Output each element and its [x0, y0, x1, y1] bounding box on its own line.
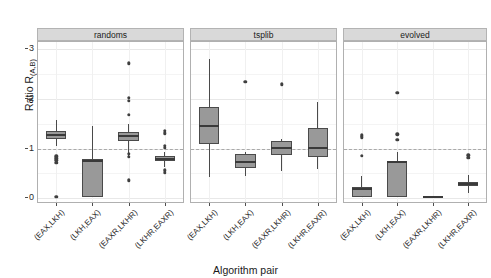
- outlier-point: [163, 131, 166, 134]
- facet-strip-label: tsplib: [190, 28, 337, 41]
- boxplot-group[interactable]: [38, 42, 183, 202]
- x-axis-tick-mark: [397, 203, 398, 206]
- facet-panel-evolved: evolved: [343, 28, 487, 203]
- median-line: [308, 147, 328, 149]
- x-axis-tick-mark: [245, 203, 246, 206]
- median-line: [155, 158, 175, 160]
- x-axis-tick-mark: [209, 203, 210, 206]
- facet-strip-label: evolved: [343, 28, 487, 41]
- x-axis-tick-mark: [56, 203, 57, 206]
- x-axis-tick-mark: [318, 203, 319, 206]
- facet-strip-label: randoms: [37, 28, 184, 41]
- x-axis-tick-mark: [433, 203, 434, 206]
- x-axis-tick-mark: [165, 203, 166, 206]
- x-axis-tick-mark: [362, 203, 363, 206]
- box-iqr: [308, 128, 328, 158]
- plot-area: [37, 41, 184, 203]
- y-axis-tick-mark: [25, 48, 28, 49]
- y-axis-tick-mark: [25, 148, 28, 149]
- boxplot-group[interactable]: [191, 42, 336, 202]
- x-axis-tick-mark: [282, 203, 283, 206]
- facet-panel-tsplib: tsplib: [190, 28, 337, 203]
- outlier-point: [467, 156, 470, 159]
- facet-panel-randoms: randoms: [37, 28, 184, 203]
- boxplot-group[interactable]: [344, 42, 486, 202]
- x-axis-tick-mark: [92, 203, 93, 206]
- x-axis-tick-mark: [468, 203, 469, 206]
- x-axis-tick-mark: [129, 203, 130, 206]
- y-axis-tick-label: 0: [12, 192, 34, 202]
- y-axis: 0123: [0, 0, 34, 278]
- y-axis-tick-label: 1: [12, 143, 34, 153]
- y-axis-tick-label: 2: [12, 93, 34, 103]
- outlier-point: [163, 146, 166, 149]
- y-axis-tick-mark: [25, 98, 28, 99]
- plot-area: [190, 41, 337, 203]
- boxplot-figure: Ratio R(A,B) 0123 Algorithm pair (EAX,LK…: [0, 0, 491, 278]
- median-line: [458, 183, 478, 185]
- y-axis-tick-label: 3: [12, 43, 34, 53]
- y-axis-tick-mark: [25, 197, 28, 198]
- plot-area: [343, 41, 487, 203]
- outlier-point: [163, 171, 166, 174]
